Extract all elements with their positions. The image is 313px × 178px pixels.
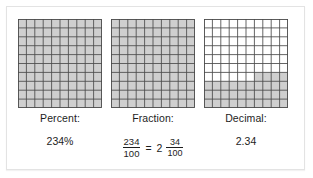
column-fraction: Fraction: 234 100 = 2 34 100 bbox=[103, 111, 203, 158]
hundred-grid-decimal bbox=[204, 19, 288, 108]
grid-decimal-svg bbox=[204, 19, 288, 108]
improper-fraction: 234 100 bbox=[123, 137, 141, 158]
column-decimal: Decimal: 2.34 bbox=[196, 111, 296, 148]
hundred-grid-fraction bbox=[111, 19, 195, 108]
mixed-denominator: 100 bbox=[166, 147, 183, 158]
percent-title: Percent: bbox=[10, 111, 110, 125]
fraction-expression: 234 100 = 2 34 100 bbox=[123, 137, 184, 158]
decimal-title: Decimal: bbox=[196, 111, 296, 125]
percent-value: 234% bbox=[10, 134, 110, 148]
mixed-numerator: 34 bbox=[169, 138, 181, 148]
equals-sign: = bbox=[144, 141, 152, 155]
improper-numerator: 234 bbox=[123, 137, 141, 147]
fraction-value: 234 100 = 2 34 100 bbox=[103, 134, 203, 158]
mixed-whole-number: 2 bbox=[157, 141, 163, 155]
grid-fraction-svg bbox=[111, 19, 195, 108]
improper-denominator: 100 bbox=[123, 147, 141, 158]
decimal-value: 2.34 bbox=[196, 134, 296, 148]
fraction-title: Fraction: bbox=[103, 111, 203, 125]
hundred-grid-percent bbox=[18, 19, 102, 108]
column-percent: Percent: 234% bbox=[10, 111, 110, 148]
labels-row: Percent: 234% Fraction: 234 100 = 2 34 1… bbox=[7, 111, 304, 167]
grid-percent-svg bbox=[18, 19, 102, 108]
mixed-fraction: 34 100 bbox=[166, 138, 183, 158]
hundred-grids-row bbox=[7, 19, 304, 111]
figure-frame: Percent: 234% Fraction: 234 100 = 2 34 1… bbox=[6, 6, 305, 170]
